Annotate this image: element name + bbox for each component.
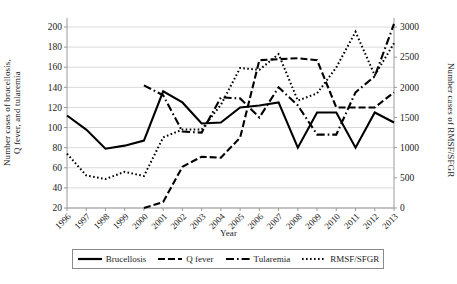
y-tick-label-left: 160 — [48, 62, 63, 72]
legend-label: RMSF/SFGR — [330, 254, 379, 264]
y-tick-label-right: 500 — [400, 173, 415, 183]
series-line-brucellosis — [67, 91, 394, 148]
y-tick-label-left: 180 — [48, 42, 63, 52]
series-line-q-fever — [144, 58, 394, 208]
legend-swatch-solid — [77, 255, 103, 263]
y-axis-right-ticklabels: 050010001500200025003000 — [400, 22, 419, 213]
series-line-rmsf-sfgr — [67, 32, 394, 179]
y-tick-label-left: 120 — [48, 103, 63, 113]
figure: Number cases of brucellosis, Q fever, an… — [0, 0, 457, 284]
x-axis-title: Year — [0, 228, 457, 238]
y-axis-left-ticklabels: 20406080100120140160180200 — [48, 22, 63, 213]
chart-legend: BrucellosisQ feverTularemiaRMSF/SFGR — [72, 249, 384, 269]
y-tick-label-right: 2000 — [400, 83, 419, 93]
y-tick-label-left: 100 — [48, 123, 63, 133]
legend-swatch-dashdot — [225, 255, 251, 263]
data-series-lines — [67, 24, 394, 208]
y-tick-label-left: 40 — [53, 183, 63, 193]
legend-entry-brucellosis: Brucellosis — [77, 254, 147, 264]
y-tick-label-right: 3000 — [400, 22, 419, 32]
legend-label: Q fever — [186, 254, 213, 264]
y-tick-label-right: 0 — [400, 203, 405, 213]
y-tick-label-left: 20 — [53, 203, 63, 213]
y-tick-label-left: 200 — [48, 22, 63, 32]
legend-label: Brucellosis — [106, 254, 147, 264]
y-tick-label-left: 80 — [53, 143, 63, 153]
legend-swatch-dashed — [157, 255, 183, 263]
legend-swatch-dotted — [301, 255, 327, 263]
legend-entry-q-fever: Q fever — [157, 254, 213, 264]
y-tick-label-left: 140 — [48, 83, 63, 93]
line-chart-plot: 20406080100120140160180200 0500100015002… — [0, 0, 457, 284]
legend-entry-rmsf-sfgr: RMSF/SFGR — [301, 254, 379, 264]
y-tick-label-left: 60 — [53, 163, 63, 173]
y-tick-label-right: 1000 — [400, 143, 419, 153]
series-line-tularemia — [144, 24, 394, 135]
y-tick-label-right: 2500 — [400, 52, 419, 62]
legend-entry-tularemia: Tularemia — [225, 254, 291, 264]
legend-label: Tularemia — [254, 254, 291, 264]
y-tick-label-right: 1500 — [400, 113, 419, 123]
